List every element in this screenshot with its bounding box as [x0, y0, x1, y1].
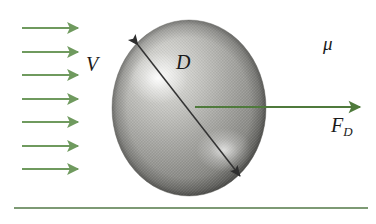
diameter-label: D — [176, 52, 190, 72]
drag-force-label: FD — [331, 115, 353, 138]
viscosity-label: μ — [323, 34, 333, 53]
drag-force-symbol: F — [331, 114, 343, 136]
drag-force-subscript: D — [343, 124, 352, 139]
sphere-drag-diagram — [0, 0, 376, 224]
velocity-label: V — [86, 54, 98, 74]
